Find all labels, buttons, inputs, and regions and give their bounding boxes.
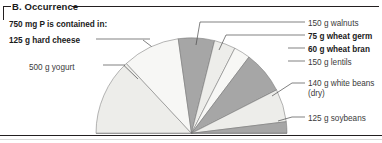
- pie-slices-group: [96, 38, 287, 133]
- semicircle-pie-chart: [0, 0, 382, 143]
- panel-bottom-rule: [0, 135, 382, 136]
- leader-hard-cheese-hook: [143, 40, 152, 47]
- panel-bottom-rule-secondary: [0, 139, 382, 140]
- occurrence-figure-panel: B. Occurrence 750 mg P is contained in: …: [0, 0, 382, 143]
